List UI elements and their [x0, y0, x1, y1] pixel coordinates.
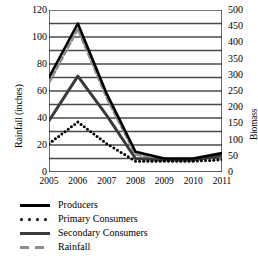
legend-item[interactable]: Rainfall: [18, 240, 248, 254]
x-axis-tick-labels: 2005200620072008200920102011: [49, 176, 222, 188]
data-point: [123, 153, 126, 156]
x-tick-label: 2010: [184, 176, 203, 186]
legend-label: Rainfall: [58, 241, 90, 253]
data-point: [80, 123, 83, 126]
x-tick-label: 2005: [40, 176, 59, 186]
data-point: [159, 160, 162, 163]
data-point: [83, 125, 86, 128]
right-tick-label: 50: [228, 151, 238, 161]
plot-svg: [49, 10, 222, 172]
data-point: [167, 160, 170, 163]
data-point: [116, 149, 119, 152]
left-tick-label: 60: [37, 86, 47, 96]
left-tick-label: 100: [32, 32, 47, 42]
x-tick-label: 2007: [97, 176, 116, 186]
data-point: [105, 142, 108, 145]
data-point: [67, 128, 70, 131]
x-tick-label: 2008: [126, 176, 145, 186]
data-point: [138, 160, 141, 163]
data-point: [64, 130, 67, 133]
data-point: [146, 160, 149, 163]
data-point: [130, 158, 133, 161]
left-tick-label: 120: [32, 5, 47, 15]
data-point: [212, 159, 215, 162]
x-tick-label: 2006: [68, 176, 87, 186]
data-point: [192, 160, 195, 163]
data-point: [109, 144, 112, 147]
data-point: [120, 151, 123, 154]
chart-legend: ProducersPrimary ConsumersSecondary Cons…: [18, 198, 248, 254]
left-tick-label: 80: [37, 59, 47, 69]
data-point: [76, 121, 79, 124]
right-tick-label: 100: [228, 135, 243, 145]
x-tick-label: 2009: [155, 176, 174, 186]
data-point: [60, 133, 63, 136]
data-point: [200, 159, 203, 162]
data-point: [196, 160, 199, 163]
right-tick-label: 300: [228, 70, 243, 80]
legend-label: Producers: [58, 199, 98, 211]
data-point: [183, 160, 186, 163]
data-point: [51, 140, 54, 143]
data-point: [216, 159, 219, 162]
data-point: [204, 159, 207, 162]
right-tick-label: 450: [228, 21, 243, 31]
data-point: [150, 160, 153, 163]
right-tick-label: 150: [228, 118, 243, 128]
data-point: [175, 160, 178, 163]
data-point: [54, 137, 57, 140]
plot-area: [49, 10, 222, 172]
left-tick-label: 40: [37, 113, 47, 123]
dashed-gray-line-key: [18, 241, 52, 253]
legend-item[interactable]: Secondary Consumers: [18, 226, 248, 240]
data-point: [208, 159, 211, 162]
data-point: [73, 123, 76, 126]
right-tick-label: 350: [228, 54, 243, 64]
solid-gray-line-key: [18, 227, 52, 239]
data-point: [155, 160, 158, 163]
right-tick-label: 250: [228, 86, 243, 96]
left-tick-label: 20: [37, 140, 47, 150]
legend-label: Secondary Consumers: [58, 227, 148, 239]
rainfall-biomass-chart: Rainfall (inches) Biomass 12010080604020…: [0, 0, 258, 256]
legend-item[interactable]: Primary Consumers: [18, 212, 248, 226]
data-point: [99, 137, 102, 140]
data-point: [112, 147, 115, 150]
left-axis-title: Rainfall (inches): [13, 84, 24, 148]
data-point: [96, 135, 99, 138]
data-point: [57, 135, 60, 138]
legend-label: Primary Consumers: [58, 213, 138, 225]
data-point: [92, 133, 95, 136]
data-point: [134, 160, 137, 163]
data-point: [179, 160, 182, 163]
data-point: [70, 125, 73, 128]
solid-black-line-key: [18, 199, 52, 211]
right-tick-label: 200: [228, 102, 243, 112]
data-point: [163, 160, 166, 163]
right-tick-label: 500: [228, 5, 243, 15]
data-point: [171, 160, 174, 163]
data-point: [102, 140, 105, 143]
data-point: [142, 160, 145, 163]
data-point: [89, 130, 92, 133]
right-tick-label: 400: [228, 37, 243, 47]
series-rainfall: [49, 29, 222, 160]
x-tick-label: 2011: [213, 176, 232, 186]
data-point: [127, 155, 130, 158]
data-point: [86, 128, 89, 131]
right-axis-title: Biomass: [249, 109, 258, 140]
legend-item[interactable]: Producers: [18, 198, 248, 212]
data-point: [188, 160, 191, 163]
dotted-line-key: [18, 213, 52, 225]
